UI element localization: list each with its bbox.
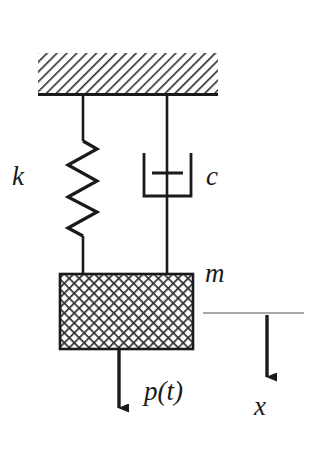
label-displacement: x: [254, 393, 266, 420]
coil-spring: [68, 95, 97, 275]
label-spring-stiffness: k: [12, 163, 24, 190]
label-applied-force: p(t): [144, 378, 183, 405]
label-damping-coefficient: c: [206, 163, 218, 190]
mass-block: [60, 274, 193, 349]
label-mass: m: [205, 260, 225, 287]
diagram-canvas: k c m p(t) x: [0, 0, 328, 452]
viscous-dashpot: [144, 95, 191, 275]
fixed-support: [38, 53, 218, 95]
